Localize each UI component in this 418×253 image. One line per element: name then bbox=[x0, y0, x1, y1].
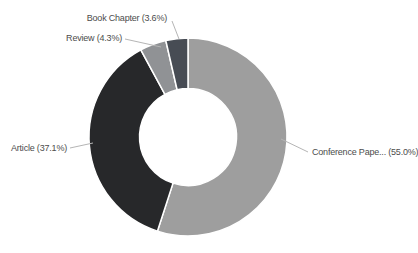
slice-label-review: Review (4.3%) bbox=[66, 33, 122, 44]
donut-chart-panel: Book Chapter (3.6%) Review (4.3%) Articl… bbox=[0, 0, 418, 253]
leader-line bbox=[172, 21, 179, 39]
slice-label-article: Article (37.1%) bbox=[11, 143, 67, 154]
slice-label-conference-paper: Conference Pape... (55.0%) bbox=[312, 147, 418, 158]
slice-label-book-chapter: Book Chapter (3.6%) bbox=[87, 13, 167, 24]
donut-chart bbox=[0, 0, 418, 253]
